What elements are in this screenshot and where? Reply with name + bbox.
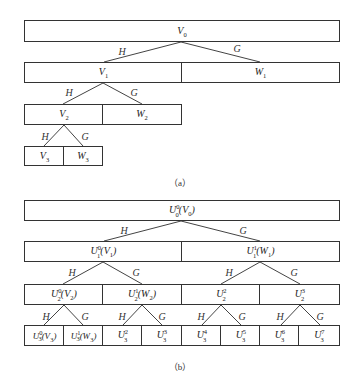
box-b-u11: U11(W1) [181, 241, 340, 262]
edge-label-h: H [118, 46, 125, 57]
edge-label-h: H [225, 267, 232, 278]
box-b-u23: U32 [259, 284, 340, 305]
caption-b: （b） [169, 360, 192, 373]
box-b-u35: U53 [220, 325, 261, 346]
box-a-v3: V3 [24, 146, 65, 166]
box-a-w3: W3 [63, 146, 103, 166]
edge-label-h: H [42, 311, 49, 322]
edge-label-g: G [239, 225, 246, 236]
box-b-u21: U12(W2) [102, 284, 182, 305]
edge-label-h: H [197, 311, 204, 322]
edge-label-g: G [132, 267, 139, 278]
box-b-u31: U13(W3) [63, 325, 104, 346]
edge-label-g: G [233, 43, 240, 54]
box-b-u00: U00(V0) [24, 200, 340, 221]
edge-label-g: G [81, 311, 88, 322]
edge-label-h: H [276, 311, 283, 322]
edge-label-h: H [118, 311, 125, 322]
box-a-w2: W2 [102, 104, 182, 125]
box-b-u32: U23 [102, 325, 143, 346]
edge-label-h: H [65, 87, 72, 98]
box-a-v2: V2 [24, 104, 104, 125]
box-b-u30: U03(V3) [24, 325, 65, 346]
edge-label-g: G [238, 311, 245, 322]
box-b-u36: U63 [259, 325, 300, 346]
box-b-u22: U22 [181, 284, 261, 305]
box-b-u37: U73 [298, 325, 340, 346]
box-a-v0: V0 [24, 20, 340, 42]
edge-label-h: H [120, 225, 127, 236]
edge-label-g: G [130, 87, 137, 98]
box-b-u34: U43 [181, 325, 222, 346]
box-a-v1: V1 [24, 62, 183, 83]
edge-label-h: H [68, 267, 75, 278]
caption-a: （a） [169, 176, 191, 189]
edge-label-g: G [290, 267, 297, 278]
box-b-u20: U02(V2) [24, 284, 104, 305]
edge-label-h: H [41, 131, 48, 142]
edge-label-g: G [81, 131, 88, 142]
box-b-u33: U33 [141, 325, 182, 346]
box-a-w1: W1 [181, 62, 340, 83]
box-b-u10: U01(V1) [24, 241, 183, 262]
edge-label-g: G [158, 311, 165, 322]
label-v0: V0 [177, 25, 186, 38]
edge-label-g: G [316, 311, 323, 322]
